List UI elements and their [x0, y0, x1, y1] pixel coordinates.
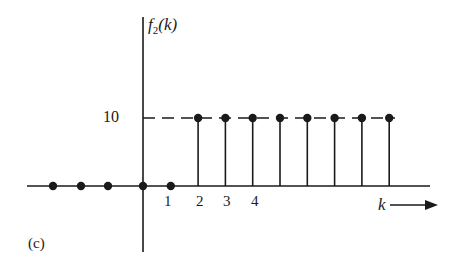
data-point: [276, 114, 284, 122]
stems: [198, 118, 389, 186]
data-point: [221, 114, 229, 122]
panel-caption: (c): [28, 235, 45, 252]
data-point: [385, 114, 393, 122]
x-axis-label: k: [378, 195, 386, 215]
data-point: [303, 114, 311, 122]
y-axis-label: f2(k): [148, 15, 177, 36]
data-points: [49, 114, 394, 190]
data-point: [104, 182, 112, 190]
data-point: [167, 182, 175, 190]
data-point: [194, 114, 202, 122]
data-point: [330, 114, 338, 122]
data-point: [249, 114, 257, 122]
x-tick-4: 4: [251, 193, 259, 210]
x-tick-3: 3: [223, 193, 231, 210]
data-point: [358, 114, 366, 122]
data-point: [77, 182, 85, 190]
y-tick-10: 10: [103, 108, 119, 126]
data-point: [139, 182, 147, 190]
stem-plot: [0, 0, 454, 270]
x-tick-1: 1: [164, 193, 172, 210]
data-point: [49, 182, 57, 190]
k-arrow-head-icon: [425, 200, 438, 210]
x-tick-2: 2: [196, 193, 204, 210]
